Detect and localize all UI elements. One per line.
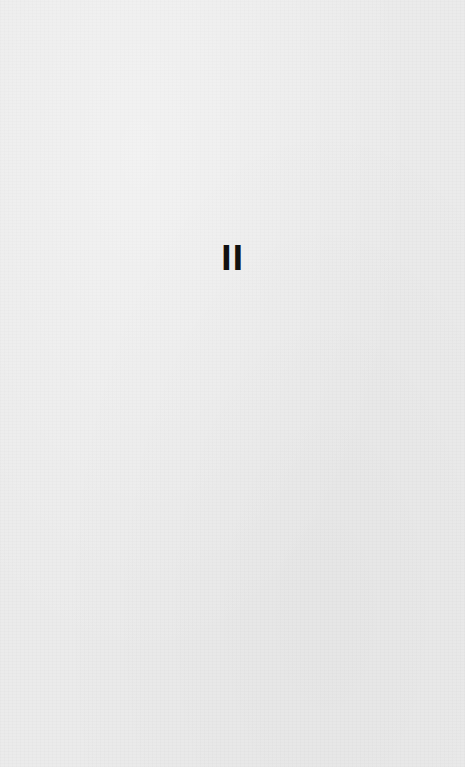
page-number: II: [35, 238, 430, 278]
document-page: II: [0, 0, 465, 767]
